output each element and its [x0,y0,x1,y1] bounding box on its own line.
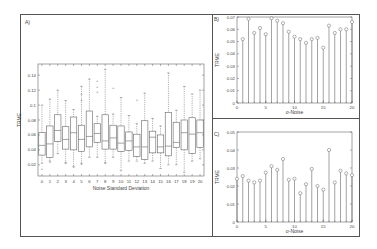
y-tick-label: 0.02 [227,184,236,189]
y-tick-label: 0.01 [227,202,236,207]
stem-18 [339,169,342,222]
stem-19 [345,172,348,222]
stem-1 [241,175,244,223]
x-axis-label: σ-Noise [286,228,304,234]
stem-6 [270,165,273,222]
stem-17 [333,181,336,222]
stem-10 [293,177,296,222]
x-tick-label: 15 [321,224,326,229]
x-tick-label: 5 [265,224,268,229]
y-tick-label: 0.03 [227,166,236,171]
x-tick-label: 0 [236,224,239,229]
stem-8 [281,157,284,222]
stem-3 [253,181,256,222]
stem-9 [287,178,290,222]
stem-2 [247,179,250,222]
stem-13 [310,167,313,222]
stem-chart-c: 00.010.020.030.040.0505101520σ-NoiseTRME [0,0,377,249]
y-axis-label: TRME [214,169,220,184]
stem-0 [235,177,238,222]
stem-4 [258,179,261,222]
stem-20 [350,174,353,222]
y-tick-label: 0.04 [227,148,236,153]
stem-14 [316,184,319,222]
x-tick-label: 20 [350,224,355,229]
stem-15 [322,188,325,222]
stem-16 [327,148,330,222]
stem-11 [299,192,302,222]
stem-12 [304,183,307,222]
stem-5 [264,171,267,222]
y-tick-label: 0.05 [227,130,236,135]
stem-7 [276,168,279,222]
